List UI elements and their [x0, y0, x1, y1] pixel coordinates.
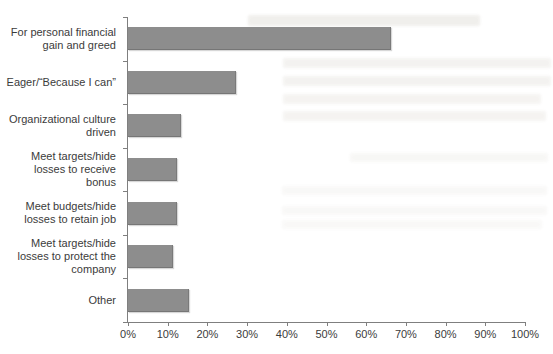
x-axis-tick-label: 50% [315, 328, 337, 340]
y-axis-tick [123, 148, 127, 149]
category-label: For personal financialgain and greed [0, 17, 121, 61]
bar [128, 27, 391, 50]
x-axis-tick [327, 322, 328, 326]
bar-row [128, 148, 525, 192]
y-axis-tick [123, 322, 127, 323]
x-axis-tick [207, 322, 208, 326]
x-axis-tick-label: 30% [236, 328, 258, 340]
bar [128, 202, 177, 225]
bar-row [128, 104, 525, 148]
x-axis-tick-label: 40% [276, 328, 298, 340]
y-axis-tick [123, 278, 127, 279]
x-axis-tick [406, 322, 407, 326]
y-axis-tick [123, 17, 127, 18]
y-axis-tick [123, 104, 127, 105]
x-axis-tick-label: 20% [196, 328, 218, 340]
bar-row [128, 235, 525, 279]
bar [128, 158, 177, 181]
category-label: Other [0, 278, 121, 322]
y-axis-tick [123, 235, 127, 236]
category-axis-labels: For personal financialgain and greedEage… [0, 17, 121, 322]
y-axis-tick [123, 61, 127, 62]
category-label: Meet targets/hidelosses to receivebonus [0, 148, 121, 192]
y-axis-tick [123, 191, 127, 192]
scanned-page: For personal financialgain and greedEage… [0, 0, 553, 354]
plot-rows [128, 17, 525, 322]
x-axis-tick [128, 322, 129, 326]
x-axis-tick-label: 70% [395, 328, 417, 340]
bar [128, 114, 181, 137]
x-axis-tick [168, 322, 169, 326]
bar-row [128, 278, 525, 322]
x-axis-tick [287, 322, 288, 326]
category-label: Eager/“Because I can” [0, 61, 121, 105]
bar-row [128, 61, 525, 105]
bar [128, 289, 189, 312]
bar-row [128, 191, 525, 235]
x-axis-tick-label: 80% [435, 328, 457, 340]
x-axis-tick [485, 322, 486, 326]
bar [128, 245, 173, 268]
x-axis-tick [366, 322, 367, 326]
category-label: Meet targets/hidelosses to protect theco… [0, 235, 121, 279]
x-axis-tick-label: 10% [157, 328, 179, 340]
category-label: Meet budgets/hidelosses to retain job [0, 191, 121, 235]
bar-row [128, 17, 525, 61]
bar-chart: For personal financialgain and greedEage… [0, 0, 553, 354]
x-axis-tick [525, 322, 526, 326]
x-axis-tick-label: 100% [511, 328, 539, 340]
x-axis-tick-label: 90% [474, 328, 496, 340]
plot-area: 0%10%20%30%40%50%60%70%80%90%100% [127, 17, 525, 323]
x-axis-tick-label: 60% [355, 328, 377, 340]
x-axis-tick [446, 322, 447, 326]
x-axis-tick-label: 0% [120, 328, 136, 340]
x-axis-tick [247, 322, 248, 326]
category-label: Organizational culturedriven [0, 104, 121, 148]
bar [128, 71, 236, 94]
